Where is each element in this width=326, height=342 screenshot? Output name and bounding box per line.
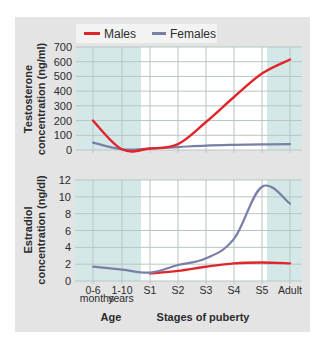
- estradiol-y-axis-title: Estradiol concentration (ng/dl): [22, 175, 47, 285]
- estradiol-ytick: 8: [65, 208, 71, 220]
- legend: Males Females: [76, 24, 217, 43]
- x-sub-label-years: years: [108, 292, 134, 304]
- estradiol-ytick: 10: [59, 191, 71, 203]
- estradiol-ytick: 2: [65, 258, 71, 270]
- hormone-chart: Males Females 0100200300400500600700 024…: [0, 0, 326, 342]
- legend-females-label: Females: [170, 27, 216, 41]
- testosterone-ytick: 700: [54, 41, 72, 53]
- x-category-label: S3: [200, 284, 213, 296]
- estradiol-ytick: 6: [65, 225, 71, 237]
- testosterone-ylabel-line2: concentration (ng/ml): [35, 42, 47, 155]
- estradiol-plot: 024681012: [59, 174, 302, 287]
- x-category-label: S5: [256, 284, 269, 296]
- testosterone-ytick: 400: [54, 85, 72, 97]
- testosterone-ytick: 600: [54, 56, 72, 68]
- testosterone-ytick: 500: [54, 70, 72, 82]
- x-group-label-puberty: Stages of puberty: [157, 311, 251, 323]
- testosterone-plot: 0100200300400500600700: [54, 41, 302, 156]
- legend-males-label: Males: [104, 27, 136, 41]
- testosterone-ylabel-line1: Testosterone: [22, 65, 34, 133]
- testosterone-ytick: 300: [54, 100, 72, 112]
- testosterone-ytick: 0: [66, 144, 72, 156]
- testosterone-age-shade: [76, 47, 141, 150]
- x-category-label: S4: [228, 284, 241, 296]
- x-category-label: S2: [172, 284, 185, 296]
- estradiol-ytick: 0: [65, 275, 71, 287]
- x-category-label: S1: [144, 284, 157, 296]
- testosterone-ytick: 200: [54, 115, 72, 127]
- x-category-label: Adult: [278, 284, 302, 296]
- x-group-label-age: Age: [101, 311, 122, 323]
- estradiol-ylabel-line2: concentration (ng/dl): [35, 175, 47, 285]
- testosterone-y-axis-title: Testosterone concentration (ng/ml): [22, 42, 47, 155]
- estradiol-ylabel-line1: Estradiol: [22, 206, 34, 253]
- testosterone-ytick: 100: [54, 129, 72, 141]
- estradiol-ytick: 12: [59, 174, 71, 186]
- estradiol-ytick: 4: [65, 241, 71, 253]
